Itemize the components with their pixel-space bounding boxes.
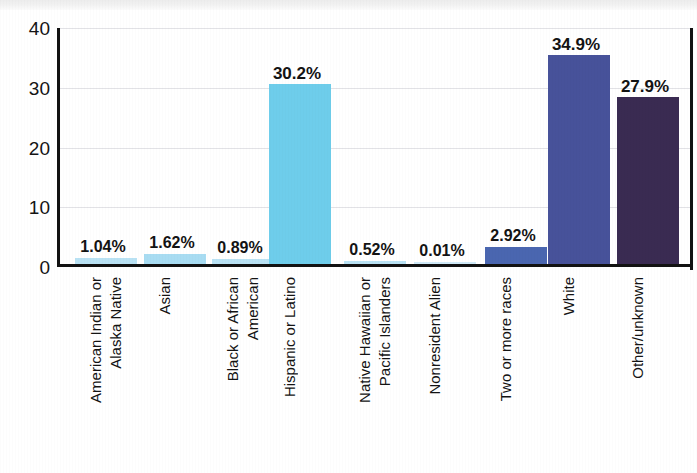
x-axis-category-label: Native Hawaiian orPacific Islanders <box>355 277 395 467</box>
category-label-line: Asian <box>155 277 175 315</box>
bar[interactable] <box>269 84 331 264</box>
bar[interactable] <box>75 258 137 264</box>
bar[interactable] <box>344 261 406 264</box>
category-label-line: Black or African <box>223 277 243 381</box>
x-axis-category-label: Black or AfricanAmerican <box>223 277 263 467</box>
y-axis-tick: 30 <box>4 78 50 97</box>
category-label-line: Alaska Native <box>106 277 126 369</box>
y-axis-tick: 40 <box>4 19 50 38</box>
bar[interactable] <box>485 247 547 264</box>
bar[interactable] <box>617 97 679 264</box>
y-axis-tick: 0 <box>4 258 50 277</box>
x-axis-category-label: American Indian orAlaska Native <box>86 277 126 467</box>
x-axis-category-label: Hispanic or Latino <box>280 277 300 467</box>
category-label-line: Hispanic or Latino <box>280 277 300 397</box>
category-label-line: American Indian or <box>86 277 106 403</box>
bar-value-label: 27.9% <box>597 78 693 95</box>
category-label-line: White <box>559 277 579 315</box>
y-axis-tick: 20 <box>4 138 50 157</box>
x-axis-category-label: Nonresident Alien <box>425 277 445 467</box>
plot-right-border <box>690 28 693 270</box>
x-axis-category-label: Asian <box>155 277 175 467</box>
gridline <box>60 28 691 29</box>
category-label-line: Other/unknown <box>628 277 648 379</box>
bar-value-label: 0.89% <box>192 240 288 256</box>
bar-value-label: 2.92% <box>465 228 561 244</box>
bar-value-label: 30.2% <box>249 65 345 82</box>
bar-chart: 010203040 1.04%1.62%0.89%30.2%0.52%0.01%… <box>0 0 697 473</box>
category-label-line: Pacific Islanders <box>375 277 395 386</box>
category-label-line: Two or more races <box>496 277 516 401</box>
x-axis-category-label: Two or more races <box>496 277 516 467</box>
bar[interactable] <box>212 259 274 264</box>
y-axis-tick: 10 <box>4 198 50 217</box>
bar-value-label: 34.9% <box>528 36 624 53</box>
x-axis-category-label: White <box>559 277 579 467</box>
x-axis-category-label: Other/unknown <box>628 277 648 467</box>
plot-area <box>57 28 691 267</box>
category-label-line: Nonresident Alien <box>425 277 445 395</box>
category-label-line: American <box>243 277 263 340</box>
bar[interactable] <box>414 262 476 265</box>
category-label-line: Native Hawaiian or <box>355 277 375 403</box>
bar[interactable] <box>144 254 206 264</box>
bar-value-label: 0.01% <box>394 243 490 259</box>
